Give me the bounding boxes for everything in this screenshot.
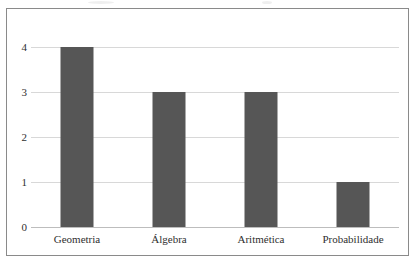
bars-layer xyxy=(31,47,399,227)
bar-slot xyxy=(31,47,123,227)
scan-artifact-right xyxy=(262,1,272,4)
bar[interactable] xyxy=(245,92,278,227)
bar[interactable] xyxy=(153,92,186,227)
bar-slot xyxy=(123,47,215,227)
bar-slot xyxy=(307,47,399,227)
chart-frame: 01234 GeometriaÁlgebraAritméticaProbabil… xyxy=(6,8,409,256)
y-tick-label-0: 0 xyxy=(5,222,27,233)
bar-slot xyxy=(215,47,307,227)
plot-area xyxy=(31,47,399,227)
scan-artifact-left xyxy=(88,1,114,4)
y-tick-label-3: 3 xyxy=(5,87,27,98)
y-tick-label-2: 2 xyxy=(5,132,27,143)
x-axis-label: Probabilidade xyxy=(307,233,399,246)
x-axis-label: Geometria xyxy=(31,233,123,246)
y-tick-label-1: 1 xyxy=(5,177,27,188)
bar[interactable] xyxy=(337,182,370,227)
x-axis-line xyxy=(31,227,399,228)
y-tick-label-4: 4 xyxy=(5,42,27,53)
bar[interactable] xyxy=(61,47,94,227)
x-axis-labels: GeometriaÁlgebraAritméticaProbabilidade xyxy=(31,233,399,251)
y-axis-labels: 01234 xyxy=(7,47,27,227)
x-axis-label: Aritmética xyxy=(215,233,307,246)
x-axis-label: Álgebra xyxy=(123,233,215,246)
